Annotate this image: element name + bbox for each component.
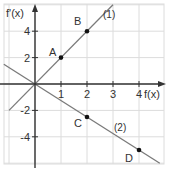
x-tick-label: 3 bbox=[110, 88, 116, 100]
point-b bbox=[85, 29, 90, 34]
point-a bbox=[59, 55, 64, 60]
point-c bbox=[85, 115, 90, 120]
point-label-b: B bbox=[74, 15, 81, 27]
y-axis-label: f'(x) bbox=[6, 7, 24, 19]
point-label-a: A bbox=[49, 46, 57, 58]
x-axis-arrow-icon bbox=[158, 81, 166, 87]
chart: (1)(2) 123442-2-4 ABCD f'(x) f(x) bbox=[0, 0, 169, 171]
x-axis-label: f(x) bbox=[144, 88, 160, 100]
y-tick-label: -2 bbox=[20, 104, 30, 116]
y-tick-label: -4 bbox=[20, 131, 30, 143]
series-label-1: (1) bbox=[103, 9, 115, 20]
point-label-d: D bbox=[125, 152, 133, 164]
x-tick-label: 2 bbox=[84, 88, 90, 100]
x-tick-label: 1 bbox=[58, 88, 64, 100]
series-label-2: (2) bbox=[114, 122, 126, 133]
point-d bbox=[137, 148, 142, 153]
point-label-c: C bbox=[74, 117, 82, 129]
y-tick-label: 2 bbox=[24, 52, 30, 64]
x-tick-label: 4 bbox=[136, 88, 142, 100]
y-tick-label: 4 bbox=[24, 25, 30, 37]
